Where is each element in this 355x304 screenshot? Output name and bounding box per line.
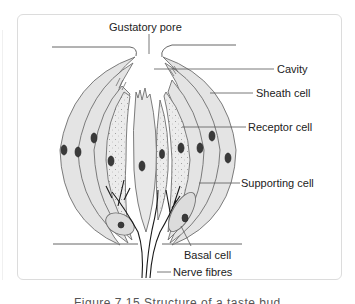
label-basal-cell: Basal cell <box>184 249 231 261</box>
label-nerve-fibres: Nerve fibres <box>173 266 232 278</box>
label-receptor-cell: Receptor cell <box>248 121 312 133</box>
taste-bud-illustration <box>0 0 355 304</box>
figure-caption: Figure 7.15 Structure of a taste bud <box>74 296 281 304</box>
label-cavity: Cavity <box>277 63 308 75</box>
label-sheath-cell: Sheath cell <box>256 87 310 99</box>
central-supporting-cell <box>133 88 156 232</box>
label-supporting-cell: Supporting cell <box>241 177 314 189</box>
label-gustatory-pore: Gustatory pore <box>109 21 182 33</box>
